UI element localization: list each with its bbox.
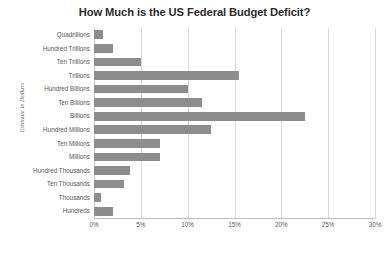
y-axis-tick-label: Quadrillions bbox=[0, 28, 90, 42]
chart-title: How Much is the US Federal Budget Defici… bbox=[0, 6, 389, 18]
bar bbox=[94, 193, 101, 202]
y-axis-tick-label: Hundred Trillions bbox=[0, 42, 90, 56]
bar bbox=[94, 207, 113, 216]
y-axis-tick-label: Ten Billions bbox=[0, 96, 90, 110]
bar-row bbox=[94, 150, 375, 164]
bar bbox=[94, 180, 124, 189]
bar bbox=[94, 85, 188, 94]
bar bbox=[94, 58, 141, 67]
x-axis-line bbox=[94, 218, 375, 219]
y-axis-tick-label: Ten Trillions bbox=[0, 55, 90, 69]
x-axis-tick-label: 30% bbox=[369, 221, 382, 228]
bar bbox=[94, 112, 305, 121]
y-axis-tick-label: Millions bbox=[0, 150, 90, 164]
bar bbox=[94, 71, 239, 80]
x-axis-tick-label: 0% bbox=[89, 221, 98, 228]
bar-row bbox=[94, 109, 375, 123]
bar-row bbox=[94, 96, 375, 110]
y-axis-tick-label: Trillions bbox=[0, 69, 90, 83]
bar bbox=[94, 98, 202, 107]
bar bbox=[94, 44, 113, 53]
x-axis-tick-label: 10% bbox=[181, 221, 194, 228]
y-axis-tick-label: Thousands bbox=[0, 191, 90, 205]
y-axis-tick-label: Hundred Billions bbox=[0, 82, 90, 96]
bar-row bbox=[94, 28, 375, 42]
y-axis-category-labels: QuadrillionsHundred TrillionsTen Trillio… bbox=[0, 28, 90, 218]
bar-row bbox=[94, 177, 375, 191]
bar-row bbox=[94, 191, 375, 205]
y-axis-tick-label: Hundred Thousands bbox=[0, 164, 90, 178]
bar-row bbox=[94, 55, 375, 69]
x-axis-tick-labels: 0%5%10%15%20%25%30% bbox=[94, 221, 375, 235]
bar-row bbox=[94, 164, 375, 178]
bar bbox=[94, 166, 130, 175]
x-axis-tick-label: 5% bbox=[136, 221, 145, 228]
plot-area bbox=[94, 28, 375, 218]
bar-row bbox=[94, 69, 375, 83]
chart-container: How Much is the US Federal Budget Defici… bbox=[0, 0, 389, 261]
gridline-30 bbox=[375, 28, 376, 218]
bar-series bbox=[94, 28, 375, 218]
y-axis-tick-label: Billions bbox=[0, 109, 90, 123]
bar-row bbox=[94, 137, 375, 151]
y-axis-tick-label: Hundreds bbox=[0, 204, 90, 218]
y-axis-tick-label: Ten Millions bbox=[0, 137, 90, 151]
x-axis-tick-label: 15% bbox=[228, 221, 241, 228]
x-axis-tick-label: 20% bbox=[275, 221, 288, 228]
bar bbox=[94, 125, 211, 134]
y-axis-tick-label: Hundred Millions bbox=[0, 123, 90, 137]
bar-row bbox=[94, 82, 375, 96]
bar bbox=[94, 30, 103, 39]
bar bbox=[94, 153, 160, 162]
bar-row bbox=[94, 204, 375, 218]
bar-row bbox=[94, 42, 375, 56]
x-axis-tick-label: 25% bbox=[322, 221, 335, 228]
bar bbox=[94, 139, 160, 148]
bar-row bbox=[94, 123, 375, 137]
y-axis-tick-label: Ten Thousands bbox=[0, 177, 90, 191]
